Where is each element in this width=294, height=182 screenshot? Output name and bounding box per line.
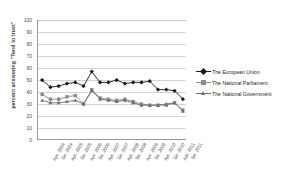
data-point-marker [74, 94, 77, 97]
data-point-marker [40, 98, 44, 101]
data-point-marker [164, 87, 168, 91]
legend-item-national-government[interactable]: The National Government [196, 88, 292, 99]
legend-label: The National Parliament [211, 80, 268, 86]
series-line [42, 72, 183, 100]
plot-area [37, 20, 186, 140]
data-point-marker [106, 80, 110, 84]
legend-label: The European Union [211, 69, 260, 75]
chart-container: percent answering "Tend to trust" 100908… [0, 0, 294, 182]
data-point-marker [131, 80, 135, 84]
data-point-marker [49, 98, 52, 101]
data-point-marker [81, 84, 85, 88]
series-line [42, 91, 183, 111]
y-axis-tick-label: 40 [16, 90, 32, 95]
y-axis-tick-label: 70 [16, 54, 32, 59]
y-axis-tick-label: 60 [16, 66, 32, 71]
data-point-marker [65, 81, 69, 85]
triangle-marker-icon [196, 89, 211, 98]
y-axis-tick-label: 10 [16, 126, 32, 131]
y-axis-tick-label: 100 [16, 18, 32, 23]
data-point-marker [57, 98, 60, 101]
x-axis-tick-labels: Apr. 2004Se. 2004Apr. 2005Se. 2005Apr. 2… [37, 141, 186, 181]
data-point-marker [123, 81, 127, 85]
y-axis-tick-label: 90 [16, 30, 32, 35]
chart-legend: The European Union The National Parliame… [196, 66, 292, 99]
legend-item-european-union[interactable]: The European Union [196, 66, 292, 77]
series-line [42, 90, 183, 110]
data-point-marker [139, 80, 143, 84]
y-axis-tick-label: 80 [16, 42, 32, 47]
diamond-marker-icon [196, 67, 211, 76]
legend-item-national-parliament[interactable]: The National Parliament [196, 77, 292, 88]
data-series-layer [38, 20, 187, 140]
data-point-marker [115, 78, 119, 82]
legend-label: The National Government [211, 91, 271, 97]
data-point-marker [57, 84, 61, 88]
y-axis-tick-label: 30 [16, 102, 32, 107]
y-axis-tick-label: 20 [16, 114, 32, 119]
square-marker-icon [196, 78, 211, 87]
data-point-marker [73, 80, 77, 84]
data-point-marker [65, 95, 68, 98]
data-point-marker [40, 93, 43, 96]
y-axis-tick-label: 50 [16, 78, 32, 83]
y-axis-tick-label: 0 [16, 138, 32, 143]
